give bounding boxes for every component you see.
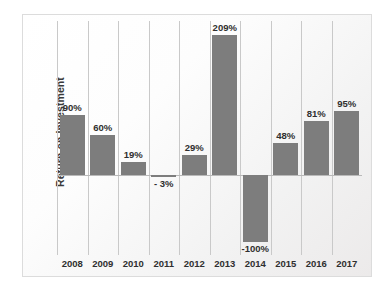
bar-group[interactable]: 209% (210, 21, 241, 255)
bar[interactable] (182, 155, 207, 174)
bar[interactable] (304, 121, 329, 175)
x-tick-label: 2012 (179, 258, 210, 269)
bar-value-label: -100% (240, 243, 271, 254)
x-axis-labels: 2008200920102011201220132014201520162017 (57, 258, 362, 276)
bar-group[interactable]: - 3% (149, 21, 180, 255)
bar-value-label: 29% (179, 142, 210, 153)
bar[interactable] (212, 35, 237, 175)
bar[interactable] (121, 162, 146, 175)
x-tick-label: 2009 (88, 258, 119, 269)
bar[interactable] (273, 143, 298, 175)
x-tick-label: 2011 (149, 258, 180, 269)
bar-value-label: - 3% (149, 178, 180, 189)
bar-value-label: 95% (332, 98, 363, 109)
bar-value-label: 19% (118, 149, 149, 160)
bar-value-label: 81% (301, 108, 332, 119)
x-tick-label: 2015 (271, 258, 302, 269)
bar-group[interactable]: 48% (271, 21, 302, 255)
bar-value-label: 90% (57, 102, 88, 113)
bar-group[interactable]: 29% (179, 21, 210, 255)
bar-value-label: 48% (271, 130, 302, 141)
bar[interactable] (60, 115, 85, 175)
bar[interactable] (334, 111, 359, 175)
bar[interactable] (90, 135, 115, 175)
x-tick-label: 2014 (240, 258, 271, 269)
x-tick-label: 2010 (118, 258, 149, 269)
bar-group[interactable]: 81% (301, 21, 332, 255)
bar[interactable] (243, 175, 268, 242)
bar[interactable] (151, 175, 176, 177)
x-tick-label: 2017 (332, 258, 363, 269)
x-tick-label: 2013 (210, 258, 241, 269)
bar-value-label: 60% (88, 122, 119, 133)
bar-group[interactable]: 90% (57, 21, 88, 255)
bar-group[interactable]: 60% (88, 21, 119, 255)
chart-figure: Return on Investment 90%60%19%- 3%29%209… (22, 14, 372, 277)
plot-area: 90%60%19%- 3%29%209%-100%48%81%95% (57, 21, 362, 255)
bar-value-label: 209% (210, 22, 241, 33)
bar-group[interactable]: -100% (240, 21, 271, 255)
bar-group[interactable]: 19% (118, 21, 149, 255)
x-tick-label: 2008 (57, 258, 88, 269)
x-tick-label: 2016 (301, 258, 332, 269)
bar-group[interactable]: 95% (332, 21, 363, 255)
